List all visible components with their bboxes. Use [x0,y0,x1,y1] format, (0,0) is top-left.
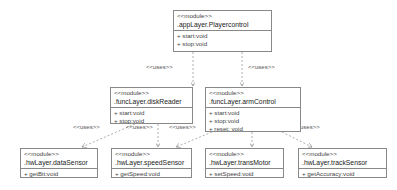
module-name: .funcLayer.armControl [209,97,297,106]
module-name: .appLayer.Playercontrol [177,20,268,29]
operation: + getSpeed:void [115,170,188,178]
operation: + stop:void [177,40,268,48]
operation: + setSpeed:void [209,170,280,178]
stereotype: <<module>> [177,12,268,20]
module-header: <<module>> .funcLayer.armControl [206,88,300,108]
stereotype: <<module>> [115,150,188,158]
operation: + start:void [177,32,268,40]
operations: + setSpeed:void [206,169,283,179]
module-func-diskreader[interactable]: <<module>> .funcLayer.diskReader + start… [110,87,193,124]
stereotype: <<module>> [209,150,280,158]
module-header: <<module>> .hwLayer.trackSensor [299,149,386,169]
operations: + start:void + stop:void [174,31,271,49]
module-name: .funcLayer.diskReader [114,97,189,106]
module-hw-transmotor[interactable]: <<module>> .hwLayer.transMotor + setSpee… [205,148,284,178]
module-hw-speedsensor[interactable]: <<module>> .hwLayer.speedSensor + getSpe… [111,148,192,178]
module-name: .hwLayer.speedSensor [115,158,188,167]
operation: + start:void [209,109,297,117]
edge-label-app-arm: <<uses>> [248,64,275,70]
stereotype: <<module>> [114,89,189,97]
module-header: <<module>> .hwLayer.transMotor [206,149,283,169]
module-header: <<module>> .funcLayer.diskReader [111,88,192,108]
operations: + start:void + stop:void [111,108,192,126]
operation: + stop:void [209,117,297,125]
operation: + getAccuracy:void [302,170,383,178]
module-name: .hwLayer.trackSensor [302,158,383,167]
stereotype: <<module>> [302,150,383,158]
edge-label-app-disk: <<uses>> [146,64,173,70]
edge-arm-track [282,132,312,147]
stereotype: <<module>> [24,150,94,158]
operation: + start:void [114,109,189,117]
module-func-armcontrol[interactable]: <<module>> .funcLayer.armControl + start… [205,87,301,132]
module-header: <<module>> .appLayer.Playercontrol [174,11,271,31]
operation: + reset: void [209,125,297,133]
edge-label-disk-data: <<uses>> [73,124,100,130]
stereotype: <<module>> [209,89,297,97]
operation: + getBit:void [24,170,94,178]
operations: + getBit:void [21,169,97,179]
module-hw-datasensor[interactable]: <<module>> .hwLayer.dataSensor + getBit:… [20,148,98,178]
module-header: <<module>> .hwLayer.speedSensor [112,149,191,169]
module-hw-tracksensor[interactable]: <<module>> .hwLayer.trackSensor + getAcc… [298,148,387,178]
edge-arm-speed [176,132,212,147]
module-name: .hwLayer.transMotor [209,158,280,167]
module-header: <<module>> .hwLayer.dataSensor [21,149,97,169]
operations: + getAccuracy:void [299,169,386,179]
module-app-playercontrol[interactable]: <<module>> .appLayer.Playercontrol + sta… [173,10,272,52]
operations: + getSpeed:void [112,169,191,179]
operation: + stop:void [114,117,189,125]
module-name: .hwLayer.dataSensor [24,158,94,167]
operations: + start:void + stop:void + reset: void [206,108,300,134]
